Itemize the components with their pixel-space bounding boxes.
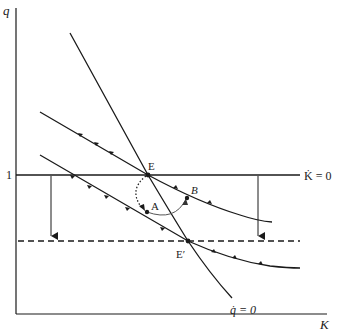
- q-dot-zero-label: q̇ = 0: [230, 303, 256, 317]
- y-axis-label: q: [3, 3, 10, 18]
- x-axis-label: K: [319, 317, 330, 332]
- jump-arrow-icon: [139, 204, 145, 211]
- phase-diagram: q K 1 K̇ = 0 q̇ = 0 E E: [0, 0, 340, 333]
- point-e: [146, 173, 151, 178]
- label-b: B: [191, 184, 198, 196]
- point-a: [145, 210, 149, 214]
- point-e-prime: [186, 239, 191, 244]
- k-dot-zero-label: K̇ = 0: [304, 169, 331, 183]
- label-e-prime: E′: [176, 248, 185, 260]
- y-tick-label-1: 1: [6, 168, 12, 182]
- label-e: E: [148, 160, 155, 172]
- saddle-path-new-arrows: [70, 175, 263, 265]
- label-a: A: [151, 200, 159, 212]
- jump-path-e-to-a: [136, 176, 146, 208]
- point-b: [185, 196, 189, 200]
